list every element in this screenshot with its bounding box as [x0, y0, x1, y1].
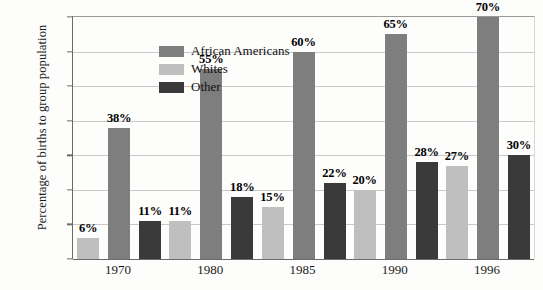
bar-value-label: 65%: [384, 17, 408, 32]
bar-value-label: 18%: [230, 180, 254, 195]
bar-column: 70%: [477, 17, 499, 259]
legend-item-label: African Americans: [191, 43, 290, 59]
bar-column: 60%: [293, 17, 315, 259]
bar-column: 38%: [108, 17, 130, 259]
bar-value-label: 6%: [79, 221, 97, 236]
bar-value-label: 11%: [138, 204, 162, 219]
bar[interactable]: [77, 238, 99, 259]
bar[interactable]: [354, 190, 376, 259]
y-axis-tick-mark: [67, 51, 73, 52]
bar-group: 6%38%11%: [73, 17, 165, 259]
legend-swatch-icon: [159, 64, 184, 75]
bar-column: 30%: [508, 17, 530, 259]
bar-value-label: 15%: [260, 190, 284, 205]
bar-column: 6%: [77, 17, 99, 259]
y-axis-tick-mark: [67, 16, 73, 17]
bar-column: 11%: [139, 17, 161, 259]
legend-item[interactable]: Other: [159, 79, 290, 95]
legend: African AmericansWhitesOther: [159, 43, 290, 95]
bar-group: 27%70%30%: [442, 17, 534, 259]
bar[interactable]: [231, 197, 253, 259]
x-axis-tick-label: 1985: [256, 262, 348, 278]
bar-group: 20%65%28%: [350, 17, 442, 259]
plot-area: 6%38%11%11%55%18%15%60%22%20%65%28%27%70…: [72, 16, 535, 259]
legend-item-label: Other: [191, 79, 221, 95]
legend-item[interactable]: Whites: [159, 61, 290, 77]
bar[interactable]: [200, 69, 222, 259]
bar[interactable]: [324, 183, 346, 259]
bar[interactable]: [385, 34, 407, 259]
bar-value-label: 27%: [445, 149, 469, 164]
bar[interactable]: [262, 207, 284, 259]
legend-swatch-icon: [159, 46, 184, 57]
y-axis-title: Percentage of births to group population: [35, 3, 50, 253]
y-axis-tick-mark: [67, 189, 73, 190]
chart-container: Percentage of births to group population…: [0, 0, 543, 290]
bar[interactable]: [169, 221, 191, 259]
bar-column: 28%: [416, 17, 438, 259]
bar-groups: 6%38%11%11%55%18%15%60%22%20%65%28%27%70…: [73, 17, 534, 259]
x-axis-tick-label: 1990: [349, 262, 441, 278]
bar[interactable]: [139, 221, 161, 259]
bar-value-label: 38%: [107, 111, 131, 126]
bar[interactable]: [477, 17, 499, 259]
bar-value-label: 11%: [168, 204, 192, 219]
bar-column: 27%: [446, 17, 468, 259]
y-axis-tick-mark: [67, 258, 73, 259]
y-axis-tick-mark: [67, 85, 73, 86]
y-axis-tick-mark: [67, 120, 73, 121]
x-axis-tick-label: 1980: [164, 262, 256, 278]
legend-swatch-icon: [159, 82, 184, 93]
y-axis-tick-mark: [67, 224, 73, 225]
x-axis-tick-labels: 19701980198519901996: [72, 262, 533, 278]
bar[interactable]: [508, 155, 530, 259]
x-axis-tick-label: 1970: [72, 262, 164, 278]
bar-column: 20%: [354, 17, 376, 259]
y-axis-tick-mark: [67, 155, 73, 156]
bar[interactable]: [293, 52, 315, 259]
bar[interactable]: [446, 166, 468, 259]
bar[interactable]: [416, 162, 438, 259]
bar-value-label: 22%: [322, 166, 346, 181]
bar-column: 22%: [324, 17, 346, 259]
bar[interactable]: [108, 128, 130, 259]
bar-value-label: 20%: [353, 173, 377, 188]
bar-value-label: 30%: [507, 138, 531, 153]
legend-item-label: Whites: [191, 61, 228, 77]
legend-item[interactable]: African Americans: [159, 43, 290, 59]
bar-value-label: 60%: [291, 35, 315, 50]
bar-value-label: 70%: [476, 0, 500, 15]
x-axis-tick-label: 1996: [441, 262, 533, 278]
bar-value-label: 28%: [415, 145, 439, 160]
bar-column: 65%: [385, 17, 407, 259]
